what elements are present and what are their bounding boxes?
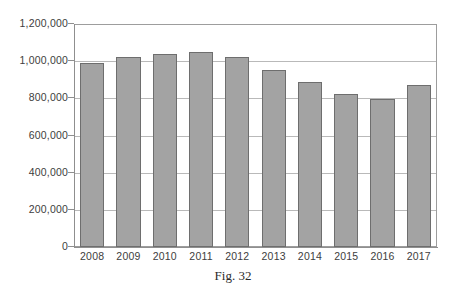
y-axis-tick-label: 200,000 [2, 204, 68, 214]
y-tick-mark [68, 60, 74, 61]
x-axis-labels: 2008200920102011201220132014201520162017 [74, 250, 437, 266]
figure: 0200,000400,000600,000800,0001,000,0001,… [0, 0, 466, 296]
bar-2014 [298, 82, 322, 247]
x-axis-tick-label-2012: 2012 [219, 250, 255, 263]
bar-chart: 0200,000400,000600,000800,0001,000,0001,… [0, 0, 466, 262]
x-axis-tick-label-2016: 2016 [364, 250, 400, 263]
bar-2011 [189, 52, 213, 247]
x-axis-tick-label-2010: 2010 [147, 250, 183, 263]
y-tick-mark [68, 23, 74, 24]
x-axis-tick-label-2008: 2008 [74, 250, 110, 263]
y-tick-mark [68, 246, 74, 247]
y-tick-mark [68, 97, 74, 98]
x-axis-tick-label-2011: 2011 [183, 250, 219, 263]
y-axis-tick-label: 1,000,000 [2, 55, 68, 65]
y-tick-mark [68, 209, 74, 210]
y-tick-mark [68, 172, 74, 173]
bar-2013 [262, 70, 286, 247]
x-axis-tick-label-2014: 2014 [292, 250, 328, 263]
bar-2016 [370, 99, 394, 247]
bar-2009 [116, 57, 140, 247]
x-axis-tick-label-2009: 2009 [110, 250, 146, 263]
bar-2012 [225, 57, 249, 247]
bar-series [74, 24, 437, 247]
bar-2010 [153, 54, 177, 247]
bar-2008 [80, 63, 104, 247]
y-axis-tick-label: 800,000 [2, 92, 68, 102]
bar-2017 [407, 85, 431, 247]
figure-caption: Fig. 32 [0, 268, 466, 284]
y-tick-mark [68, 135, 74, 136]
y-axis-tick-label: 600,000 [2, 130, 68, 140]
y-axis-tick-label: 400,000 [2, 167, 68, 177]
x-axis-tick-label-2017: 2017 [401, 250, 437, 263]
y-axis-tick-label: 0 [2, 241, 68, 251]
y-axis-tick-label: 1,200,000 [2, 18, 68, 28]
y-axis-labels: 0200,000400,000600,000800,0001,000,0001,… [0, 0, 68, 262]
x-axis-tick-label-2013: 2013 [256, 250, 292, 263]
x-axis-line [74, 247, 438, 248]
bar-2015 [334, 94, 358, 247]
x-axis-tick-label-2015: 2015 [328, 250, 364, 263]
